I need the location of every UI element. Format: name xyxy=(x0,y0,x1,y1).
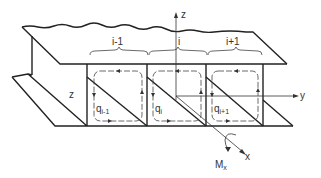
y-axis-arrow-icon xyxy=(293,94,299,98)
cell-label-i-1: i-1 xyxy=(112,36,124,47)
bottom-flange-diagonal-2 xyxy=(147,77,206,126)
arrow-icon xyxy=(256,88,260,92)
cell-label-i: i xyxy=(178,36,180,47)
z-axis-label: z xyxy=(181,9,186,20)
bottom-flange-diagonal-1 xyxy=(87,77,147,126)
moment-label: Mx xyxy=(215,159,227,171)
arrow-icon xyxy=(226,119,230,123)
shear-flow-label-i+1: qi+1 xyxy=(214,103,229,115)
top-plate-wavy-edge xyxy=(22,23,287,64)
brace-i-1 xyxy=(90,47,148,55)
arrow-icon xyxy=(92,93,96,97)
arrow-icon xyxy=(199,90,203,94)
left-z-label: z xyxy=(69,89,74,100)
bottom-flange-diagonal-4 xyxy=(263,100,293,126)
brace-i+1 xyxy=(208,47,262,55)
moment-arrow-icon xyxy=(225,147,231,152)
arrow-icon xyxy=(151,93,155,97)
bottom-flange-diagonal-3 xyxy=(206,77,263,126)
z-axis-arrow-icon xyxy=(174,12,178,18)
arrow-icon xyxy=(234,69,238,73)
arrow-icon xyxy=(108,119,112,123)
x-axis-label: x xyxy=(245,151,250,162)
arrow-icon xyxy=(167,119,171,123)
x-axis xyxy=(176,96,243,152)
box-beam-diagram: z y x z i-1 i i+1 qi-1 qi qi+1 Mx xyxy=(0,0,321,178)
shear-flow-label-i-1: qi-1 xyxy=(96,103,109,115)
cell-label-i+1: i+1 xyxy=(226,36,240,47)
brace-i xyxy=(149,47,207,55)
arrow-icon xyxy=(116,69,120,73)
y-axis-label: y xyxy=(300,90,305,101)
arrow-icon xyxy=(140,90,144,94)
shear-flow-label-i: qi xyxy=(155,103,163,115)
